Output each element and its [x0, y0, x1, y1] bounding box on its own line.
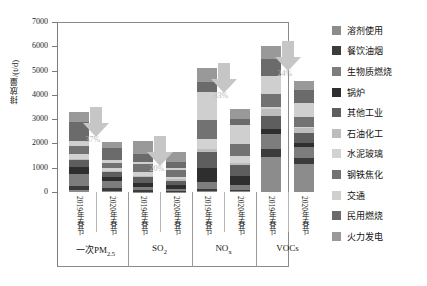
- legend-item-label: 餐饮油烟: [347, 44, 383, 57]
- y-tick-5000: 5000: [14, 67, 48, 75]
- reduction-percent-VOCs: 24%: [278, 69, 293, 78]
- reduction-arrow-NOx: [211, 63, 237, 93]
- bar-segment-7: [294, 117, 314, 127]
- legend-item-9[interactable]: 民用燃烧: [332, 205, 424, 226]
- bar-segment-0: [102, 191, 122, 192]
- bar-segment-0: [197, 191, 217, 192]
- x-tick-label-1: 2020年春节: [106, 196, 118, 235]
- x-tick-label-3: 2020年春节: [170, 196, 182, 235]
- legend-swatch-icon: [332, 67, 341, 76]
- bar-segment-4: [294, 133, 314, 143]
- x-tick-label-0: 2019年春节: [73, 196, 85, 235]
- x-group-label-SO2: SO2: [130, 243, 190, 255]
- bar-segment-2: [102, 181, 122, 188]
- x-group-label-NOx: NOx: [194, 243, 254, 255]
- y-tick-7000: 7000: [14, 18, 48, 26]
- reduction-percent-NOx: 33%: [214, 91, 229, 100]
- reduction-arrow-VOCs: [275, 41, 301, 71]
- bar-segment-2: [197, 182, 217, 189]
- legend-swatch-icon: [332, 232, 341, 241]
- bar-segment-10: [294, 81, 314, 90]
- legend-item-label: 火力发电: [347, 230, 383, 243]
- legend-item-5[interactable]: 石油化工: [332, 123, 424, 144]
- x-tick-label-5: 2020年春节: [234, 196, 246, 235]
- reduction-percent-SO2: 20%: [150, 164, 165, 173]
- bar-segment-0: [69, 190, 89, 192]
- bar-segment-2: [69, 174, 89, 186]
- legend-item-label: 水泥玻璃: [347, 147, 383, 160]
- legend-item-1[interactable]: 餐饮油烟: [332, 41, 424, 62]
- bar-segment-7: [69, 146, 89, 154]
- bar-segment-4: [261, 116, 281, 129]
- pair-separator-2: [224, 192, 225, 232]
- bar-segment-7: [261, 94, 281, 107]
- x-group-label-一次PM2.5: 一次PM2.5: [66, 243, 126, 257]
- bar-VOCs-2020: [294, 81, 314, 192]
- legend-item-label: 民用燃烧: [347, 209, 383, 222]
- bar-segment-2: [294, 147, 314, 158]
- x-tick-label-4: 2019年春节: [201, 196, 213, 235]
- legend-swatch-icon: [332, 149, 341, 158]
- group-separator-1: [128, 192, 129, 267]
- bar-segment-3: [230, 176, 250, 185]
- legend-swatch-icon: [332, 170, 341, 179]
- legend: 溶剂使用餐饮油烟生物质燃烧锅炉其他工业石油化工水泥玻璃钢铁焦化交通民用燃烧火力发…: [332, 20, 424, 247]
- bar-segment-6: [197, 139, 217, 149]
- bar-segment-4: [69, 160, 89, 167]
- bar-一次PM2.5-2020: [102, 142, 122, 192]
- bar-segment-8: [294, 103, 314, 117]
- bar-segment-1: [261, 149, 281, 157]
- y-tick-2000: 2000: [14, 139, 48, 147]
- y-tick-6000: 6000: [14, 42, 48, 50]
- bar-segment-0: [230, 191, 250, 192]
- legend-item-label: 交通: [347, 189, 365, 202]
- bar-segment-7: [197, 120, 217, 138]
- legend-swatch-icon: [332, 191, 341, 200]
- legend-item-2[interactable]: 生物质燃烧: [332, 61, 424, 82]
- legend-item-7[interactable]: 钢铁焦化: [332, 164, 424, 185]
- legend-item-label: 石油化工: [347, 127, 383, 140]
- legend-item-6[interactable]: 水泥玻璃: [332, 144, 424, 165]
- y-tick-0: 0: [14, 188, 48, 196]
- legend-item-4[interactable]: 其他工业: [332, 102, 424, 123]
- legend-item-label: 其他工业: [347, 106, 383, 119]
- pair-separator-0: [96, 192, 97, 232]
- reduction-arrow-SO2: [147, 136, 173, 166]
- emissions-stacked-bar-chart: 排放量/(t/d) 01000200030004000500060007000 …: [0, 0, 427, 286]
- y-tick-1000: 1000: [14, 164, 48, 172]
- pair-separator-3: [288, 192, 289, 232]
- legend-swatch-icon: [332, 88, 341, 97]
- x-group-label-VOCs: VOCs: [258, 243, 318, 253]
- bar-segment-7: [230, 144, 250, 156]
- y-tick-3000: 3000: [14, 115, 48, 123]
- legend-swatch-icon: [332, 129, 341, 138]
- y-tick-4000: 4000: [14, 91, 48, 99]
- bar-NOx-2020: [230, 109, 250, 192]
- legend-item-0[interactable]: 溶剂使用: [332, 20, 424, 41]
- legend-item-label: 锅炉: [347, 86, 365, 99]
- bar-segment-3: [197, 168, 217, 182]
- bar-segment-0: [294, 164, 314, 192]
- legend-item-label: 钢铁焦化: [347, 168, 383, 181]
- group-separator-3: [256, 192, 257, 267]
- bar-segment-9: [102, 148, 122, 160]
- group-separator-2: [192, 192, 193, 267]
- legend-swatch-icon: [332, 108, 341, 117]
- y-tick-mark-0: [52, 192, 57, 193]
- legend-item-label: 生物质燃烧: [347, 65, 392, 78]
- legend-item-8[interactable]: 交通: [332, 185, 424, 206]
- bar-segment-6: [230, 156, 250, 163]
- legend-item-10[interactable]: 火力发电: [332, 226, 424, 247]
- bar-segment-10: [230, 109, 250, 119]
- legend-swatch-icon: [332, 26, 341, 35]
- legend-swatch-icon: [332, 46, 341, 55]
- bar-segment-9: [294, 90, 314, 103]
- x-tick-label-7: 2020年春节: [298, 196, 310, 235]
- bar-segment-2: [261, 134, 281, 149]
- legend-swatch-icon: [332, 211, 341, 220]
- bar-segment-4: [230, 165, 250, 176]
- reduction-arrow-一次PM2.5: [83, 107, 109, 137]
- legend-item-3[interactable]: 锅炉: [332, 82, 424, 103]
- legend-item-label: 溶剂使用: [347, 24, 383, 37]
- x-tick-label-2: 2019年春节: [137, 196, 149, 235]
